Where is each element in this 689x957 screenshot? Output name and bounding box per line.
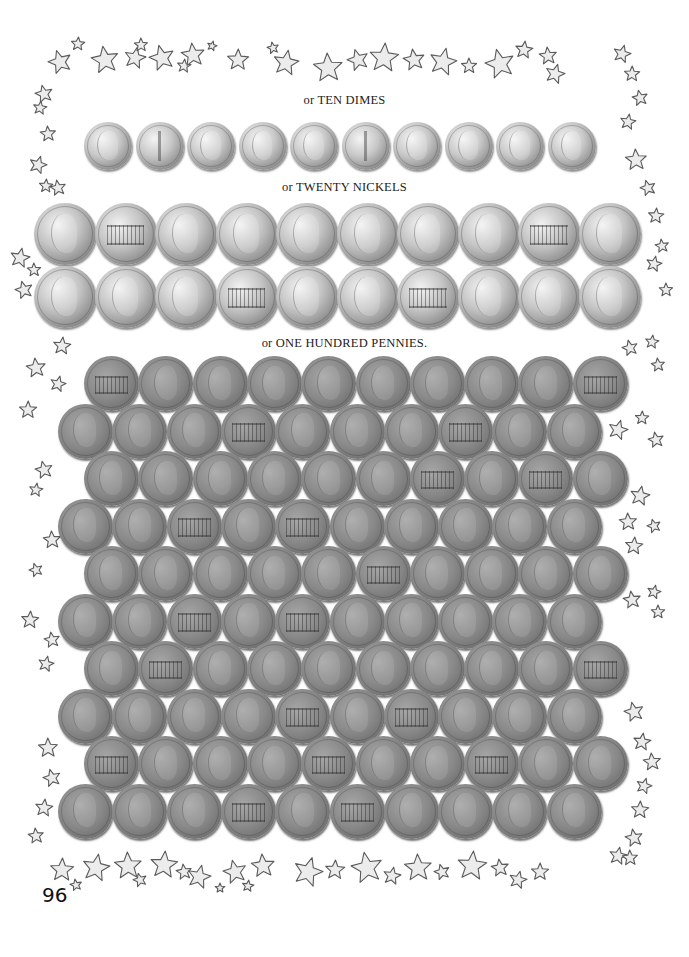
- penny-coin-heads: [438, 784, 493, 839]
- penny-coin-tails: [275, 689, 330, 744]
- portrait-icon: [317, 461, 340, 495]
- portrait-icon: [262, 556, 285, 590]
- portrait-icon: [317, 556, 340, 590]
- building-icon: [367, 566, 400, 584]
- building-icon: [286, 518, 319, 536]
- star-icon: [458, 851, 486, 879]
- portrait-icon: [128, 413, 151, 447]
- star-icon: [637, 778, 652, 793]
- star-icon: [347, 50, 367, 71]
- star-icon: [516, 41, 533, 58]
- penny-coin-tails: [138, 641, 193, 696]
- penny-coin-heads: [112, 784, 167, 839]
- penny-coin-heads: [356, 356, 411, 411]
- nickel-coin-heads: [458, 203, 520, 265]
- portrait-icon: [562, 603, 585, 637]
- dime-coin-heads: [187, 122, 235, 170]
- star-icon: [314, 53, 343, 81]
- penny-coin-heads: [330, 499, 385, 554]
- dime-coin-tails: [342, 122, 390, 170]
- portrait-icon: [291, 413, 314, 447]
- portrait-icon: [51, 214, 77, 252]
- portrait-icon: [479, 461, 502, 495]
- penny-coin-heads: [138, 546, 193, 601]
- caption-pennies: or ONE HUNDRED PENNIES.: [0, 336, 689, 351]
- star-icon: [647, 256, 662, 271]
- portrait-icon: [371, 651, 394, 685]
- portrait-icon: [534, 556, 557, 590]
- portrait-icon: [293, 277, 319, 315]
- penny-coin-heads: [356, 736, 411, 791]
- penny-coin-tails: [167, 499, 222, 554]
- portrait-icon: [172, 214, 198, 252]
- portrait-icon: [154, 461, 177, 495]
- nickel-coin-heads: [397, 203, 459, 265]
- penny-coin-heads: [221, 689, 276, 744]
- portrait-icon: [475, 214, 501, 252]
- portrait-icon: [317, 651, 340, 685]
- building-icon: [178, 613, 211, 631]
- penny-coin-heads: [112, 594, 167, 649]
- portrait-icon: [208, 651, 231, 685]
- penny-coin-tails: [275, 594, 330, 649]
- portrait-icon: [208, 746, 231, 780]
- penny-coin-heads: [464, 641, 519, 696]
- star-icon: [655, 239, 668, 252]
- dime-coin-heads: [290, 122, 338, 170]
- penny-coin-heads: [275, 784, 330, 839]
- star-icon: [370, 43, 398, 71]
- penny-coin-heads: [247, 736, 302, 791]
- star-icon: [275, 50, 299, 74]
- building-icon: [286, 613, 319, 631]
- star-icon: [625, 829, 642, 846]
- penny-coin-heads: [384, 404, 439, 459]
- star-icon: [40, 126, 55, 141]
- building-icon: [584, 661, 617, 679]
- building-icon: [286, 708, 319, 726]
- nickel-coin-heads: [276, 266, 338, 328]
- portrait-icon: [208, 366, 231, 400]
- nickel-coin-tails: [518, 203, 580, 265]
- portrait-icon: [262, 651, 285, 685]
- portrait-icon: [509, 131, 529, 161]
- dime-coin-heads: [393, 122, 441, 170]
- penny-coin-heads: [492, 784, 547, 839]
- nickel-coin-heads: [155, 266, 217, 328]
- penny-coin-heads: [138, 736, 193, 791]
- penny-coin-heads: [330, 594, 385, 649]
- portrait-icon: [588, 461, 611, 495]
- portrait-icon: [128, 698, 151, 732]
- star-icon: [27, 263, 40, 276]
- penny-coin-tails: [330, 784, 385, 839]
- penny-coin-heads: [492, 404, 547, 459]
- portrait-icon: [345, 413, 368, 447]
- building-icon: [149, 661, 182, 679]
- penny-coin-heads: [193, 451, 248, 506]
- penny-coin-heads: [410, 736, 465, 791]
- penny-coin-heads: [547, 404, 602, 459]
- portrait-icon: [562, 508, 585, 542]
- penny-coin-heads: [330, 404, 385, 459]
- nickel-coin-heads: [337, 203, 399, 265]
- star-icon: [151, 851, 178, 877]
- portrait-icon: [303, 131, 323, 161]
- building-icon: [95, 376, 128, 394]
- penny-coin-tails: [84, 356, 139, 411]
- penny-coin-heads: [58, 594, 113, 649]
- portrait-icon: [233, 214, 259, 252]
- dime-coin-tails: [136, 122, 184, 170]
- star-icon: [634, 733, 651, 750]
- penny-coin-heads: [492, 499, 547, 554]
- star-icon: [431, 48, 457, 75]
- portrait-icon: [182, 413, 205, 447]
- portrait-icon: [293, 214, 319, 252]
- star-icon: [648, 432, 663, 447]
- portrait-icon: [425, 651, 448, 685]
- penny-coin-heads: [247, 451, 302, 506]
- dime-coin-heads: [548, 122, 596, 170]
- star-icon: [20, 401, 37, 417]
- portrait-icon: [475, 277, 501, 315]
- portrait-icon: [425, 556, 448, 590]
- portrait-icon: [588, 556, 611, 590]
- penny-coin-heads: [193, 736, 248, 791]
